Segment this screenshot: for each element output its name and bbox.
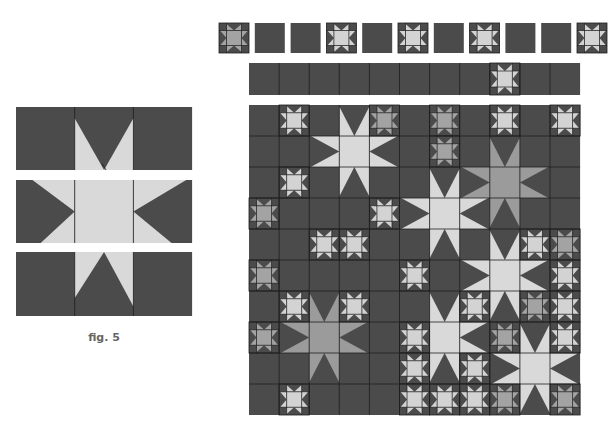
small-star-block — [369, 198, 399, 229]
star-center — [407, 268, 422, 284]
small-star-block — [490, 322, 520, 353]
small-star-block — [430, 384, 460, 415]
small-star-block — [430, 136, 460, 167]
star-block — [577, 23, 607, 53]
small-star-block — [249, 198, 279, 229]
star-block — [398, 23, 428, 53]
small-star-block — [550, 105, 580, 136]
star-center — [558, 268, 573, 284]
star-block — [219, 23, 249, 53]
small-star-block — [550, 322, 580, 353]
blank-block — [434, 23, 464, 53]
small-star-block — [550, 229, 580, 260]
star-center — [257, 268, 272, 284]
star-center — [257, 206, 272, 222]
small-star-block — [279, 105, 309, 136]
star-center — [585, 31, 600, 46]
small-star-block — [279, 167, 309, 198]
star-center — [467, 361, 482, 377]
star-center — [317, 237, 332, 253]
small-star-block — [309, 229, 339, 260]
row-background — [16, 252, 192, 316]
star-center — [257, 330, 272, 346]
blank-block — [362, 23, 392, 53]
star-center — [377, 206, 392, 222]
star-center — [407, 361, 422, 377]
star-center — [287, 175, 302, 191]
star-center — [467, 299, 482, 315]
star-center — [227, 31, 242, 46]
top-row-blocks — [219, 23, 607, 53]
small-star-block — [400, 322, 430, 353]
small-star-block — [550, 260, 580, 291]
star-center — [497, 113, 512, 129]
small-star-block — [550, 291, 580, 322]
star-center — [309, 322, 339, 353]
fig5-row-top — [16, 107, 192, 170]
star-block — [470, 23, 500, 53]
star-center — [490, 260, 520, 291]
horizontal-strip — [249, 63, 580, 95]
star-center — [347, 299, 362, 315]
star-center — [430, 322, 460, 353]
small-star-block — [249, 260, 279, 291]
small-star-block — [279, 384, 309, 415]
blank-block — [541, 23, 571, 53]
star-center — [437, 144, 452, 160]
star-center — [490, 167, 520, 198]
star-center — [407, 392, 422, 408]
small-star-block — [490, 384, 520, 415]
star-center — [497, 71, 512, 87]
star-center — [334, 31, 349, 46]
small-star-block — [400, 260, 430, 291]
star-center — [430, 198, 460, 229]
blank-block — [255, 23, 285, 53]
star-center — [527, 299, 542, 315]
star-center — [287, 113, 302, 129]
star-center — [558, 392, 573, 408]
star-center — [558, 299, 573, 315]
strip-background — [249, 63, 580, 95]
star-center — [406, 31, 421, 46]
star-center — [520, 353, 550, 384]
star-center — [437, 113, 452, 129]
small-star-block — [520, 229, 550, 260]
star-block — [490, 63, 520, 95]
small-star-block — [430, 105, 460, 136]
small-star-block — [400, 384, 430, 415]
small-star-block — [460, 384, 490, 415]
star-center — [497, 392, 512, 408]
star-center — [347, 237, 362, 253]
star-center — [287, 299, 302, 315]
star-center — [339, 136, 369, 167]
star-center — [467, 392, 482, 408]
fig5-row-bottom — [16, 252, 192, 316]
star-block — [326, 23, 356, 53]
figure-caption: fig. 5 — [84, 331, 124, 344]
small-star-block — [490, 105, 520, 136]
blank-block — [291, 23, 321, 53]
small-star-block — [520, 291, 550, 322]
star-center — [527, 237, 542, 253]
fig5-row-middle — [16, 180, 192, 243]
star-center — [287, 392, 302, 408]
blank-block — [505, 23, 535, 53]
quilt-top-grid — [249, 105, 580, 415]
quilt-diagram-canvas — [0, 0, 615, 430]
small-star-block — [460, 291, 490, 322]
star-center — [497, 330, 512, 346]
star-center — [407, 330, 422, 346]
star-center — [477, 31, 492, 46]
star-center — [558, 113, 573, 129]
star-center — [75, 180, 134, 243]
small-star-block — [339, 291, 369, 322]
small-star-block — [249, 322, 279, 353]
row-background — [16, 107, 192, 170]
small-star-block — [369, 105, 399, 136]
star-center — [558, 330, 573, 346]
figure-5-star-block-rows — [16, 107, 192, 316]
star-center — [558, 237, 573, 253]
small-star-block — [279, 291, 309, 322]
small-star-block — [460, 353, 490, 384]
small-star-block — [339, 229, 369, 260]
